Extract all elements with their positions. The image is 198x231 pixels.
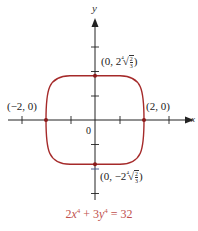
y-axis	[91, 18, 99, 200]
plot-svg	[0, 0, 198, 231]
point-label-top: (0, 24√23)	[101, 55, 137, 69]
x-axis	[8, 116, 194, 124]
origin-label: 0	[86, 126, 91, 136]
point-left	[44, 118, 48, 122]
point-label-bottom: (0, −24√23)	[100, 170, 143, 184]
y-axis-label: y	[92, 3, 97, 14]
point-right	[142, 118, 146, 122]
point-top	[93, 74, 97, 78]
graph-figure: y x 0 (−2, 0) (2, 0) (0, 24√23) (0, −24√…	[0, 0, 198, 231]
point-bottom	[93, 162, 97, 166]
y-axis-arrow-icon	[92, 18, 99, 27]
equation-caption: 2x4 + 3y4 = 32	[0, 207, 198, 222]
point-label-right: (2, 0)	[146, 101, 170, 112]
x-axis-label: x	[191, 115, 195, 124]
point-label-left: (−2, 0)	[7, 101, 37, 112]
